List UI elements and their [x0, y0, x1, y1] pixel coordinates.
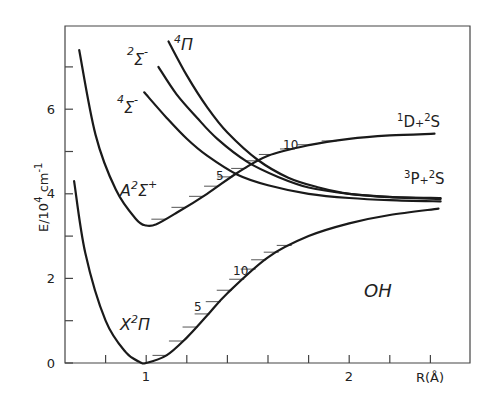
vib-label-a-10: 10	[283, 138, 298, 152]
y-tick-label-2: 2	[47, 271, 55, 286]
y-tick-label-0: 0	[47, 356, 55, 371]
y-axis-ticks	[65, 67, 73, 363]
curve-2sigma-minus	[158, 67, 440, 199]
y-axis-label: E/104 cm-1	[33, 163, 51, 232]
vib-label-a-5: 5	[216, 169, 224, 183]
potential-energy-chart: 0 2 4 6 1 2 R(Å) E/104 cm-1 X2Π A2Σ+ 4Σ-…	[0, 0, 492, 401]
label-a2sigma-plus: A2Σ+	[119, 178, 157, 200]
vib-label-x-10: 10	[233, 264, 248, 278]
label-4pi: 4Π	[174, 33, 193, 54]
label-2sigma-minus: 2Σ-	[127, 45, 148, 69]
vib-label-x-5: 5	[194, 300, 202, 314]
y-tick-label-6: 6	[47, 102, 55, 117]
x-tick-labels: 1 2	[142, 369, 353, 384]
label-x2pi: X2Π	[119, 313, 150, 334]
label-4sigma-minus: 4Σ-	[117, 93, 138, 117]
molecule-label: OH	[364, 280, 392, 301]
label-1d-2s: 1D+2S	[397, 112, 440, 131]
label-3p-2s: 3P+2S	[404, 169, 445, 188]
y-tick-labels: 0 2 4 6	[47, 102, 55, 371]
x-tick-label-1: 1	[142, 369, 150, 384]
x-axis-label: R(Å)	[416, 370, 444, 385]
x-tick-label-2: 2	[345, 369, 353, 384]
vibrational-levels	[151, 141, 336, 355]
